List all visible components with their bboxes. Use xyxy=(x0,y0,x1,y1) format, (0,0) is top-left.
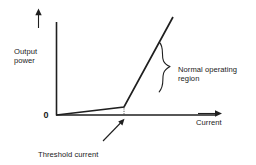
x-axis-label: Current xyxy=(196,118,223,127)
arrow-diagonal-icon xyxy=(103,119,125,141)
characteristic-curve xyxy=(57,17,174,115)
normal-operating-region-label-line-2: region xyxy=(178,74,199,83)
curly-brace-icon xyxy=(159,43,170,92)
laser-diode-characteristic-diagram: Output power 0 Current Normal operating … xyxy=(0,0,256,165)
normal-operating-region-label-line-1: Normal operating xyxy=(178,65,237,74)
y-axis-label-line-1: Output xyxy=(14,47,38,56)
arrow-up-icon xyxy=(35,9,41,29)
figure-canvas: Output power 0 Current Normal operating … xyxy=(0,0,256,165)
threshold-current-label: Threshold current xyxy=(38,150,99,159)
origin-zero-label: 0 xyxy=(44,110,49,120)
y-axis-label-line-2: power xyxy=(14,56,35,65)
arrow-right-icon xyxy=(198,110,222,117)
